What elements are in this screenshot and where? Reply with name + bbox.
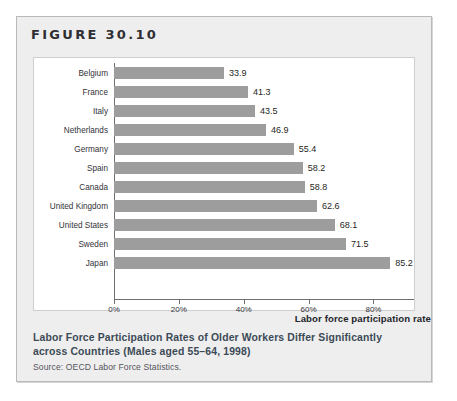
bar-row: Italy43.5 [34,101,414,120]
x-axis-tick [244,299,245,304]
bar-row: Germany55.4 [34,139,414,158]
x-axis-tick [179,299,180,304]
bar-value-label: 58.2 [308,163,326,173]
bar [114,67,224,79]
bar-row: France41.3 [34,82,414,101]
bar [114,200,317,212]
bar-value-label: 33.9 [229,68,247,78]
bar-row: Belgium33.9 [34,63,414,82]
category-label: Belgium [34,68,108,77]
bar [114,162,303,174]
category-label: Germany [34,144,108,153]
bar [114,238,346,250]
category-label: United States [34,220,108,229]
x-axis-title: Labor force participation rate [295,313,431,324]
x-axis-tick [309,299,310,304]
bar-value-label: 85.2 [395,258,413,268]
bar [114,143,294,155]
category-label: Sweden [34,239,108,248]
bar [114,86,248,98]
bar-row: Canada58.8 [34,177,414,196]
bar-row: United States68.1 [34,215,414,234]
x-axis-tick-label: 40% [236,305,252,314]
plot-area: Belgium33.9France41.3Italy43.5Netherland… [34,58,414,310]
bar [114,105,255,117]
x-axis-line [114,299,414,300]
x-axis-tick [373,299,374,304]
category-label: Netherlands [34,125,108,134]
category-label: France [34,87,108,96]
bar-value-label: 71.5 [351,239,369,249]
bar-row: Japan85.2 [34,253,414,272]
figure-number-label: FIGURE 30.10 [31,27,158,42]
bar-row: Netherlands46.9 [34,120,414,139]
bar [114,219,335,231]
bar [114,257,390,269]
bar-value-label: 68.1 [340,220,358,230]
bar-value-label: 62.6 [322,201,340,211]
bar [114,124,266,136]
x-axis-tick-label: 20% [171,305,187,314]
bar-value-label: 41.3 [253,87,271,97]
category-label: Canada [34,182,108,191]
chart-panel: Belgium33.9France41.3Italy43.5Netherland… [33,57,415,311]
figure-box: FIGURE 30.10 Belgium33.9France41.3Italy4… [16,16,432,382]
category-label: Spain [34,163,108,172]
bar [114,181,305,193]
category-label: Japan [34,258,108,267]
bar-row: Sweden71.5 [34,234,414,253]
bar-row: United Kingdom62.6 [34,196,414,215]
figure-caption: Labor Force Participation Rates of Older… [33,331,417,359]
category-label: United Kingdom [34,201,108,210]
x-axis-tick-label: 0% [108,305,120,314]
bar-value-label: 58.8 [310,182,328,192]
bar-value-label: 43.5 [260,106,278,116]
category-label: Italy [34,106,108,115]
bar-value-label: 46.9 [271,125,289,135]
x-axis-tick [114,299,115,304]
figure-source: Source: OECD Labor Force Statistics. [33,362,181,372]
bar-value-label: 55.4 [299,144,317,154]
bar-row: Spain58.2 [34,158,414,177]
